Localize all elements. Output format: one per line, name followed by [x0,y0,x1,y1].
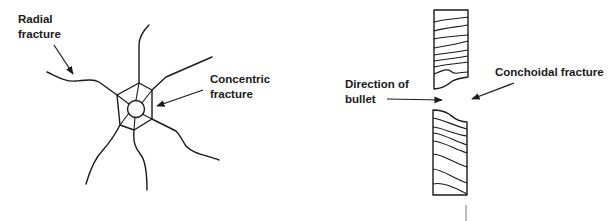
radial-spoke [134,117,135,130]
direction-label-line2: bullet [345,93,376,105]
radial-fracture-line [86,125,120,184]
striation-line [433,169,467,183]
radial-fracture-line [152,119,219,160]
bullet-hole-circle [128,101,145,118]
radial-fracture-arrow [54,45,73,74]
radial-fracture-line [134,130,147,190]
glass-cross-section: Direction of bullet Conchoidal fracture [345,10,604,221]
upper-glass-block [434,10,468,89]
striation-line [434,62,468,67]
glass-fracture-pattern: Radial fracture Concentric fracture [18,13,273,190]
striation-line [434,70,468,74]
radial-fracture-line [47,72,117,95]
striation-line [433,154,467,167]
fracture-diagram: Radial fracture Concentric fracture [0,0,608,221]
radial-spoke [142,90,152,103]
bullet-direction-arrow [387,99,442,100]
radial-spoke [142,114,152,119]
striation-line [434,41,468,48]
direction-label-line1: Direction of [345,78,409,90]
striation-line [433,127,467,136]
concentric-fracture-label-line1: Concentric [210,73,271,85]
radial-fracture-line [152,57,212,90]
concentric-fracture-label-line2: fracture [210,88,253,100]
conchoidal-fracture-arrow [472,83,514,99]
radial-fracture-label: Radial fracture [18,13,61,40]
concentric-fracture-arrow [157,90,203,106]
direction-of-bullet-label: Direction of bullet [345,78,412,105]
radial-spoke [120,113,129,125]
concentric-fracture-label: Concentric fracture [210,73,273,100]
striation-line [433,183,467,194]
radial-fracture-label-line2: fracture [18,28,61,40]
radial-fracture-label-line1: Radial [18,13,53,25]
radial-spoke [136,83,139,100]
striation-line [434,56,468,61]
striation-line [434,35,468,39]
striation-line [434,50,468,55]
striation-line [434,17,468,22]
radial-fracture-line [139,25,149,83]
conchoidal-fracture-label: Conchoidal fracture [495,66,604,78]
radial-spoke [117,95,129,104]
striation-line [434,25,468,31]
